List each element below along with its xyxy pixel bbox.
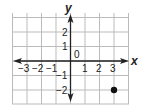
x-tick-neg3: −3 xyxy=(18,63,30,74)
x-axis-label: x xyxy=(130,54,139,68)
y-axis-label: y xyxy=(64,1,73,15)
coordinate-plane: y x 0 −3 −2 −1 1 2 3 2 1 −1 −2 xyxy=(0,0,144,105)
y-axis xyxy=(68,14,74,102)
y-tick-neg1: −1 xyxy=(56,70,68,81)
x-tick-1: 1 xyxy=(82,63,88,74)
y-tick-neg2: −2 xyxy=(56,85,68,96)
y-tick-2: 2 xyxy=(62,27,68,38)
x-tick-2: 2 xyxy=(96,63,102,74)
y-tick-1: 1 xyxy=(62,41,68,52)
x-tick-3: 3 xyxy=(110,63,116,74)
origin-label: 0 xyxy=(74,49,80,60)
data-point xyxy=(111,87,117,93)
x-tick-neg2: −2 xyxy=(32,63,44,74)
